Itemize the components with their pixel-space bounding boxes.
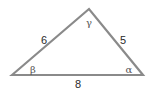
- triangle-diagram: 6 5 8 γ β α: [0, 0, 147, 90]
- side-bottom-label: 8: [75, 78, 81, 90]
- angle-gamma-label: γ: [86, 17, 92, 28]
- side-left-label: 6: [41, 34, 47, 46]
- side-right-label: 5: [120, 34, 126, 46]
- angle-beta-label: β: [30, 64, 36, 75]
- angle-alpha-label: α: [126, 64, 133, 75]
